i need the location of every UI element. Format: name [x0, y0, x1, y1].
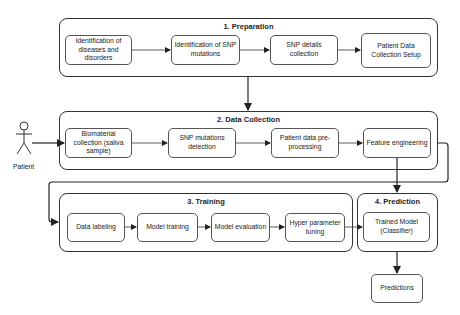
- node-biomaterial-collection: Biomaterial collection (saliva sample): [65, 128, 132, 158]
- node-data-labeling: Data labeling: [67, 213, 125, 242]
- node-snp-mutations-detection: SNP mutations detection: [168, 128, 236, 158]
- node-patient-data-collection-setup: Patient Data Collection Setup: [361, 33, 431, 68]
- node-snp-details-collection: SNP details collection: [270, 35, 338, 65]
- node-trained-model: Trained Model (Classifier): [363, 212, 430, 242]
- group-title-training: 3. Training: [60, 197, 352, 206]
- patient-actor-icon: [12, 121, 38, 157]
- node-identification-of-diseases: Identification of diseases and disorders: [65, 35, 132, 65]
- node-patient-data-preprocessing: Patient data pre-processing: [271, 128, 339, 158]
- group-title-prediction: 4. Prediction: [358, 197, 437, 206]
- pipeline-diagram: 1. Preparation Identification of disease…: [0, 0, 460, 315]
- node-identification-of-snp-mutations: Identification of SNP mutations: [171, 35, 240, 65]
- node-feature-engineering: Feature engineering: [363, 128, 431, 158]
- node-predictions: Predictions: [371, 274, 423, 303]
- node-model-evaluation: Model evaluation: [211, 213, 270, 242]
- group-title-data-collection: 2. Data Collection: [60, 115, 437, 124]
- node-model-training: Model training: [137, 213, 198, 242]
- patient-label: Patient: [13, 163, 34, 170]
- node-hyper-parameter-tuning: Hyper parameter tuning: [285, 213, 345, 242]
- group-title-preparation: 1. Preparation: [60, 22, 437, 31]
